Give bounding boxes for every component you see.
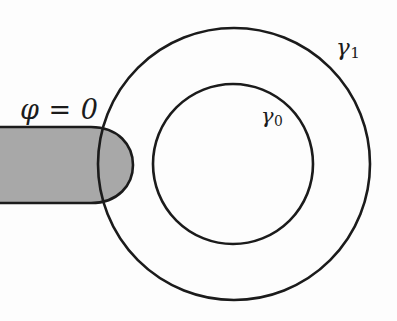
inner-curve-label-base: γ xyxy=(261,104,274,128)
outer-circle-gamma-1 xyxy=(98,28,370,300)
inner-curve-label-subscript: 0 xyxy=(274,113,283,129)
outer-curve-label-subscript: 1 xyxy=(350,44,360,62)
boundary-condition-label: φ = 0 xyxy=(20,96,98,123)
shaded-dirichlet-region xyxy=(0,127,133,203)
inner-curve-label: γ0 xyxy=(261,106,283,129)
figure-canvas: φ = 0 γ1 γ0 xyxy=(0,0,397,321)
outer-curve-label: γ1 xyxy=(336,36,360,62)
outer-curve-label-base: γ xyxy=(336,34,350,60)
inner-circle-gamma-0 xyxy=(153,84,313,244)
